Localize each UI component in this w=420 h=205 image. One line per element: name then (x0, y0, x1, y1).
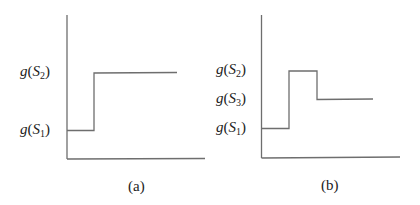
func-symbol: g (20, 121, 28, 137)
panel-a-label-g-s1: g(S1) (20, 122, 50, 139)
panel-a-plot (67, 15, 205, 159)
func-symbol: g (216, 61, 224, 77)
panel-b-step-function (262, 71, 374, 129)
func-symbol: g (216, 119, 224, 135)
set-symbol: S (229, 61, 237, 77)
panel-a-label-g-s2: g(S2) (20, 64, 50, 81)
func-symbol: g (20, 63, 28, 79)
figure-lines (0, 0, 420, 205)
set-symbol: S (33, 121, 41, 137)
panel-b-label-g-s1: g(S1) (216, 120, 246, 137)
set-symbol: S (33, 63, 41, 79)
set-symbol: S (229, 119, 237, 135)
panel-b-caption: (b) (321, 178, 339, 193)
panel-b-label-g-s3: g(S3) (216, 91, 246, 108)
panel-a-step-function (67, 73, 177, 131)
set-symbol: S (229, 90, 237, 106)
panel-a-caption: (a) (128, 179, 145, 194)
func-symbol: g (216, 90, 224, 106)
panel-a-x-axis (67, 159, 205, 160)
panel-b-label-g-s2: g(S2) (216, 62, 246, 79)
panel-b-plot (262, 15, 401, 158)
panel-b-x-axis (262, 157, 401, 158)
